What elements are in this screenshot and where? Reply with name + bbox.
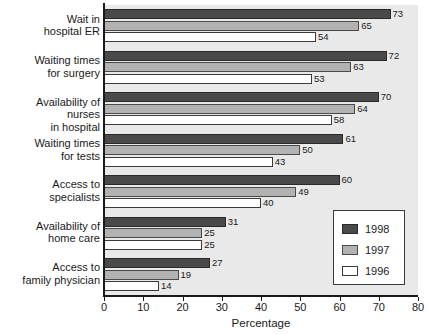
dark-gray-swatch (342, 224, 358, 234)
bar-1996 (104, 198, 261, 208)
bar-1997 (104, 270, 179, 280)
bar-value-label: 54 (318, 30, 329, 43)
bar-value-label: 64 (357, 102, 368, 115)
bar-value-label: 43 (275, 155, 286, 168)
category-label: Availability of nurses in hospital (0, 96, 100, 134)
bar-value-label: 58 (334, 113, 345, 126)
legend-label: 1997 (365, 243, 389, 257)
bar-1997 (104, 21, 359, 31)
bar-group-row: 72 (104, 51, 418, 61)
chart-legend: 199819971996 (333, 210, 405, 285)
legend-label: 1996 (365, 264, 389, 278)
bar-1997 (104, 104, 355, 114)
bar-value-label: 70 (381, 90, 392, 103)
x-tick-label: 0 (89, 301, 119, 313)
bar-group-row: 43 (104, 157, 418, 167)
bar-group-row: 63 (104, 62, 418, 72)
bar-value-label: 53 (314, 72, 325, 85)
bar-1998 (104, 134, 343, 144)
bar-value-label: 63 (353, 60, 364, 73)
bar-1997 (104, 187, 296, 197)
bar-1998 (104, 175, 340, 185)
bar-value-label: 73 (393, 7, 404, 20)
bar-1998 (104, 51, 387, 61)
category-label: Wait in hospital ER (0, 13, 100, 38)
bar-group-row: 50 (104, 145, 418, 155)
bar-1997 (104, 62, 351, 72)
bar-group-row: 65 (104, 21, 418, 31)
bar-1996 (104, 240, 202, 250)
bar-1997 (104, 228, 202, 238)
bar-group-row: 64 (104, 104, 418, 114)
white-swatch (342, 266, 358, 276)
bar-1996 (104, 115, 332, 125)
x-tick-label: 20 (168, 301, 198, 313)
bar-value-label: 25 (204, 238, 215, 251)
bar-1996 (104, 281, 159, 291)
medium-gray-swatch (342, 245, 358, 255)
category-label: Waiting times for tests (0, 137, 100, 162)
bar-value-label: 14 (161, 279, 172, 292)
bar-group-row: 40 (104, 198, 418, 208)
x-tick-label: 80 (403, 301, 429, 313)
x-tick-label: 70 (364, 301, 394, 313)
bar-value-label: 60 (342, 173, 353, 186)
x-tick-label: 50 (285, 301, 315, 313)
bar-1998 (104, 258, 210, 268)
category-label: Access to specialists (0, 178, 100, 203)
bar-group-row: 53 (104, 74, 418, 84)
bar-value-label: 40 (263, 196, 274, 209)
bar-group-row: 58 (104, 115, 418, 125)
bar-group-row: 54 (104, 32, 418, 42)
category-label: Availability of home care (0, 220, 100, 245)
bar-1996 (104, 32, 316, 42)
category-axis-labels: Wait in hospital ERWaiting times for sur… (0, 5, 100, 295)
bar-value-label: 19 (181, 268, 192, 281)
bar-1996 (104, 157, 273, 167)
x-tick-label: 10 (128, 301, 158, 313)
bar-value-label: 49 (298, 185, 309, 198)
x-tick-label: 60 (325, 301, 355, 313)
bar-1997 (104, 145, 300, 155)
bar-value-label: 27 (212, 256, 223, 269)
legend-label: 1998 (365, 222, 389, 236)
category-label: Access to family physician (0, 261, 100, 286)
bar-group-row: 60 (104, 175, 418, 185)
bar-group-row: 61 (104, 134, 418, 144)
bar-value-label: 31 (228, 215, 239, 228)
bar-1998 (104, 9, 391, 19)
y-axis-line (103, 3, 105, 297)
bar-value-label: 50 (302, 143, 313, 156)
bar-value-label: 61 (345, 132, 356, 145)
x-axis-title: Percentage (104, 317, 418, 329)
x-tick-label: 40 (246, 301, 276, 313)
bar-group-row: 49 (104, 187, 418, 197)
bar-group-row: 70 (104, 92, 418, 102)
bar-value-label: 72 (389, 49, 400, 62)
bar-1996 (104, 74, 312, 84)
x-tick-label: 30 (207, 301, 237, 313)
bar-1998 (104, 217, 226, 227)
bar-value-label: 65 (361, 19, 372, 32)
category-label: Waiting times for surgery (0, 54, 100, 79)
bar-group-row: 73 (104, 9, 418, 19)
bar-1998 (104, 92, 379, 102)
